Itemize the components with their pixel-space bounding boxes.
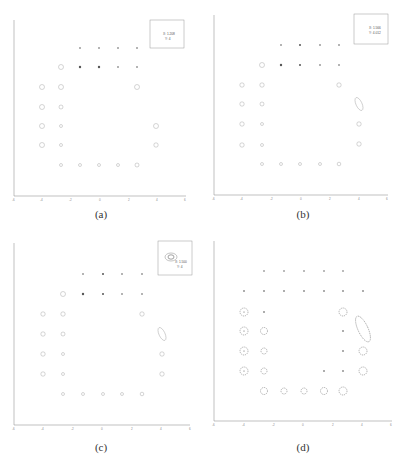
panel-a: -6-4-2 0246 X: 1.208 Y: 4 (a) [0,0,202,233]
panel-c: -6-4-2 0246 X: 1.500 Y: 4 (c) [0,233,202,466]
svg-text:-4: -4 [40,198,43,202]
svg-text:2: 2 [131,427,133,431]
panel-b: -6-4-2 0246 X: 1.566 Y: 4.012 (b) [202,0,404,233]
caption-a: (a) [0,208,202,220]
svg-text:-4: -4 [41,427,44,431]
inset-y-label: Y: 4 [177,265,183,269]
svg-text:-6: -6 [12,198,15,202]
svg-text:0: 0 [300,197,302,201]
inset-x-label: X: 1.208 [163,32,175,36]
svg-text:0: 0 [101,427,103,431]
svg-text:-2: -2 [71,427,74,431]
svg-text:6: 6 [390,423,392,427]
caption-d: (d) [202,441,404,453]
svg-text:-2: -2 [69,198,72,202]
svg-text:-2: -2 [272,423,275,427]
svg-text:0: 0 [99,198,101,202]
inset-c [158,241,192,275]
svg-text:-4: -4 [240,197,243,201]
svg-text:2: 2 [128,198,130,202]
caption-c: (c) [0,441,202,453]
svg-text:6: 6 [184,198,186,202]
plot-a: -6-4-2 0246 X: 1.208 Y: 4 [0,0,202,210]
svg-text:4: 4 [361,423,363,427]
inset-x-label: X: 1.500 [175,260,187,264]
svg-text:6: 6 [189,427,191,431]
svg-text:6: 6 [386,197,388,201]
inset-y-label: Y: 4.012 [369,31,381,35]
svg-text:0: 0 [302,423,304,427]
svg-text:2: 2 [332,423,334,427]
svg-text:-4: -4 [242,423,245,427]
inset-x-label: X: 1.566 [369,26,381,30]
svg-text:-6: -6 [212,197,215,201]
plot-d: -6-4-2 0246 [202,233,404,443]
panel-d: -6-4-2 0246 (d) [202,233,404,466]
svg-text:-2: -2 [270,197,273,201]
plot-c: -6-4-2 0246 X: 1.500 Y: 4 [0,233,202,443]
svg-text:4: 4 [156,198,158,202]
svg-text:-6: -6 [12,427,15,431]
svg-text:4: 4 [160,427,162,431]
svg-text:4: 4 [358,197,360,201]
inset-y-label: Y: 4 [165,37,171,41]
svg-text:-6: -6 [212,423,215,427]
plot-b: -6-4-2 0246 X: 1.566 Y: 4.012 [202,0,404,210]
caption-b: (b) [202,208,404,220]
svg-text:2: 2 [329,197,331,201]
